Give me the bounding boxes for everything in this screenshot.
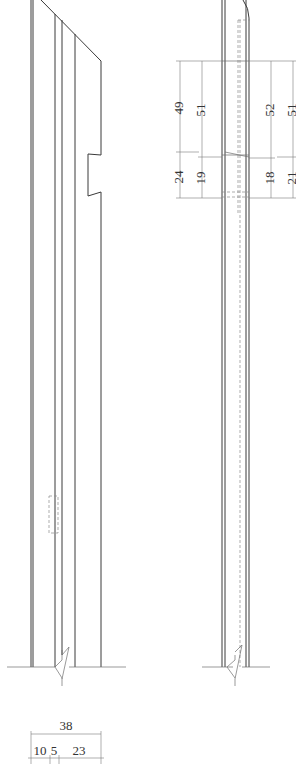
dim-38: 38	[60, 718, 73, 733]
dim-51-left: 51	[193, 104, 208, 117]
dim-49: 49	[171, 102, 186, 115]
dim-18: 18	[262, 172, 277, 185]
dim-52: 52	[262, 104, 277, 117]
dim-24: 24	[171, 170, 186, 184]
left-elevation-view	[7, 0, 126, 686]
dimensions-bottom: 38 10 5 23	[28, 718, 104, 764]
dim-5: 5	[51, 743, 58, 758]
dim-23: 23	[73, 743, 86, 758]
dim-10: 10	[34, 743, 47, 758]
technical-drawing: 49 24 51 19 52 18 51 21 38 10 5 23	[0, 0, 296, 764]
right-elevation-view	[202, 0, 270, 686]
dimensions-right-view: 49 24 51 19 52 18 51 21	[171, 61, 296, 198]
dim-21: 21	[284, 172, 296, 185]
dim-19: 19	[193, 172, 208, 185]
dim-51-right: 51	[284, 104, 296, 117]
